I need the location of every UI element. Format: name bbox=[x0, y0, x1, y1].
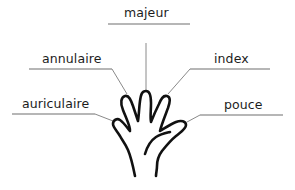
pouce-leader-line bbox=[187, 115, 200, 122]
thumb-crease bbox=[145, 132, 170, 154]
index-leader-line bbox=[168, 69, 190, 94]
label-auriculaire: auriculaire bbox=[22, 98, 89, 111]
label-pouce: pouce bbox=[224, 99, 263, 112]
auriculaire-leader-line bbox=[95, 114, 113, 121]
hand-outline-icon bbox=[113, 91, 186, 176]
label-annulaire: annulaire bbox=[42, 53, 102, 66]
annulaire-leader-line bbox=[112, 69, 127, 94]
diagram-canvas bbox=[0, 0, 295, 190]
label-majeur: majeur bbox=[124, 7, 169, 20]
label-index: index bbox=[214, 53, 249, 66]
